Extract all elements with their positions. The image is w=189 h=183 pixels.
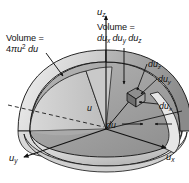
ux-sub: x <box>171 156 174 163</box>
label-duy: duy <box>158 74 171 84</box>
duy-base: du <box>158 74 168 84</box>
label-volume-shell-line2: 4πu2 du <box>6 44 38 54</box>
cube-term-z-base: du <box>128 33 138 43</box>
uz-sub: z <box>102 11 105 18</box>
label-duz: duz <box>148 59 161 69</box>
dux-sub: x <box>169 105 172 112</box>
label-dux: dux <box>159 101 172 111</box>
duy-sub: y <box>168 78 171 85</box>
label-volume-shell: Volume = 4πu2 du <box>6 33 44 54</box>
label-du: du <box>106 120 116 130</box>
velocity-space-diagram: Volume = 4πu2 du Volume = dux duy duz du… <box>0 0 189 183</box>
axis-label-ux: ux <box>166 151 175 162</box>
label-volume-cube: Volume = dux duy duz <box>97 22 141 43</box>
dux-base: du <box>159 101 169 111</box>
label-volume-cube-line2: dux duy duz <box>97 33 141 43</box>
label-volume-cube-line1: Volume = <box>97 22 135 32</box>
duz-base: du <box>148 59 158 69</box>
cube-term-y-sub: y <box>123 36 126 43</box>
cube-term-y-base: du <box>113 33 123 43</box>
shell-exponent: 2 <box>22 42 25 49</box>
shell-du: du <box>28 44 38 54</box>
axis-label-uy: uy <box>9 152 18 163</box>
duz-sub: z <box>158 63 161 70</box>
axis-label-uz: uz <box>97 6 106 17</box>
label-u: u <box>87 103 92 113</box>
cube-term-x-base: du <box>97 33 107 43</box>
cube-term-z-sub: z <box>138 36 141 43</box>
uy-sub: y <box>14 157 17 164</box>
diagram-canvas <box>0 0 189 183</box>
cube-term-x-sub: x <box>107 36 110 43</box>
